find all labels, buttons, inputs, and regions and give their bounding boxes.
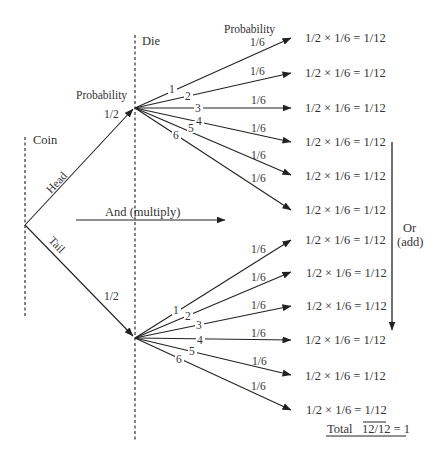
svg-text:1/6: 1/6	[251, 122, 266, 134]
svg-text:1/6: 1/6	[251, 149, 266, 161]
die-stage-label: Die	[142, 34, 161, 48]
tail-branch-arrow	[25, 225, 133, 336]
svg-text:1/6: 1/6	[251, 380, 266, 392]
add-label: (add)	[397, 235, 423, 249]
head-outcome-equations: 1/2 × 1/6 = 1/12 1/2 × 1/6 = 1/12 1/2 × …	[305, 31, 386, 217]
svg-text:1/6: 1/6	[251, 327, 266, 339]
svg-text:1/6: 1/6	[250, 36, 265, 48]
head-probability: 1/2	[104, 108, 119, 120]
equation: 1/2 × 1/6 = 1/12	[305, 31, 386, 45]
tail-branch-label: Tail	[47, 234, 68, 255]
head-die-outcome-labels: 1 2 3 4 5 6	[168, 82, 204, 141]
tail-outcome-equations: 1/2 × 1/6 = 1/12 1/2 × 1/6 = 1/12 1/2 × …	[305, 233, 387, 417]
equation: 1/2 × 1/6 = 1/12	[305, 233, 386, 247]
svg-text:4: 4	[196, 115, 202, 127]
svg-text:1/6: 1/6	[251, 271, 266, 283]
equation: 1/2 × 1/6 = 1/12	[306, 266, 387, 280]
svg-text:2: 2	[185, 310, 191, 322]
svg-text:1: 1	[173, 304, 179, 316]
probability-tree-diagram: Coin Die Head Tail Probability 1/2 1/2 A…	[0, 0, 444, 463]
svg-text:5: 5	[189, 345, 195, 357]
die-probability-header: Probability	[224, 23, 275, 36]
svg-text:1/6: 1/6	[252, 355, 267, 367]
svg-text:6: 6	[176, 353, 182, 365]
svg-text:1/6: 1/6	[251, 172, 266, 184]
equation: 1/2 × 1/6 = 1/12	[305, 66, 386, 80]
svg-text:1/6: 1/6	[251, 94, 266, 106]
or-label: Or	[403, 221, 417, 235]
equation: 1/2 × 1/6 = 1/12	[305, 169, 386, 183]
svg-text:1/6: 1/6	[251, 243, 266, 255]
svg-text:1/6: 1/6	[250, 65, 265, 77]
equation: 1/2 × 1/6 = 1/12	[305, 333, 386, 347]
equation: 1/2 × 1/6 = 1/12	[305, 203, 386, 217]
tail-probability: 1/2	[104, 290, 119, 302]
equation: 1/2 × 1/6 = 1/12	[306, 299, 387, 313]
total-label: Total	[327, 422, 353, 436]
tail-die-probabilities: 1/6 1/6 1/6 1/6 1/6 1/6	[251, 243, 267, 392]
and-multiply-label: And (multiply)	[105, 205, 180, 219]
head-die-branches	[135, 38, 291, 210]
equation: 1/2 × 1/6 = 1/12	[305, 135, 386, 149]
svg-text:4: 4	[197, 334, 203, 346]
head-die-probabilities: 1/6 1/6 1/6 1/6 1/6 1/6	[250, 36, 266, 184]
svg-text:1: 1	[169, 83, 175, 95]
equation: 1/2 × 1/6 = 1/12	[305, 369, 386, 383]
total-value: 12/12 = 1	[362, 422, 410, 436]
svg-text:3: 3	[195, 102, 201, 114]
equation: 1/2 × 1/6 = 1/12	[305, 101, 386, 115]
equation: 1/2 × 1/6 = 1/12	[306, 403, 387, 417]
svg-text:1/6: 1/6	[251, 299, 266, 311]
tail-die-branches	[135, 240, 291, 410]
svg-text:2: 2	[185, 90, 191, 102]
svg-text:5: 5	[188, 122, 194, 134]
coin-probability-header: Probability	[76, 89, 127, 102]
coin-stage-label: Coin	[33, 133, 58, 147]
svg-text:6: 6	[173, 129, 179, 141]
svg-text:3: 3	[196, 319, 202, 331]
tail-die-outcome-labels: 1 2 3 4 5 6	[172, 303, 205, 365]
